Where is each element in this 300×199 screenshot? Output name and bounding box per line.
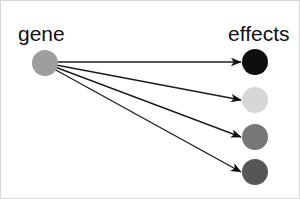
effects-label: effects	[228, 22, 289, 45]
effect-node-2	[242, 87, 268, 113]
gene-effects-diagram: geneeffects	[0, 0, 300, 199]
effect-node-1	[242, 49, 268, 75]
gene-label: gene	[18, 22, 65, 45]
effect-node-3	[242, 124, 268, 150]
gene-node	[32, 50, 58, 76]
diagram-canvas: geneeffects	[0, 0, 300, 199]
effect-node-4	[242, 159, 268, 185]
